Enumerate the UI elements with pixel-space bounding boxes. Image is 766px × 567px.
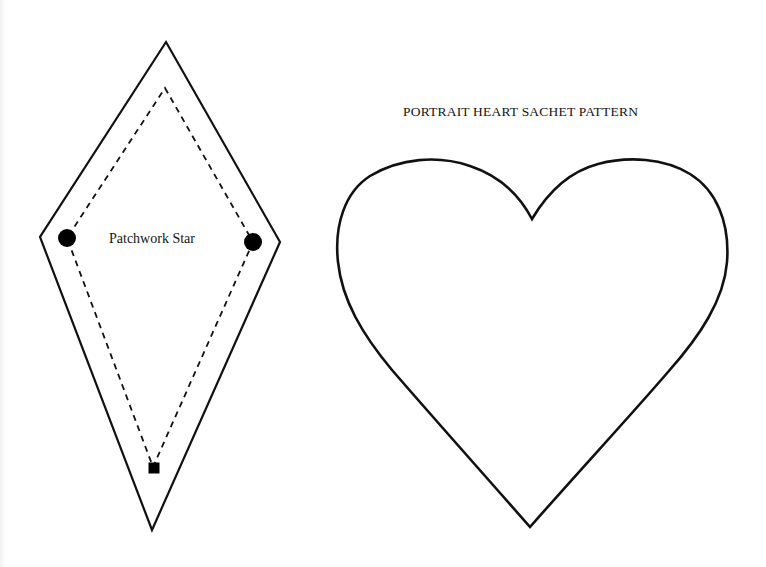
pattern-artwork xyxy=(0,0,766,567)
star-pattern-label: Patchwork Star xyxy=(109,231,195,247)
bottom-square-marker-icon xyxy=(149,463,160,474)
patchwork-star-template xyxy=(40,42,280,530)
right-circle-marker-icon xyxy=(244,233,262,251)
star-cut-line xyxy=(40,42,280,530)
heart-pattern-title: PORTRAIT HEART SACHET PATTERN xyxy=(403,104,638,120)
heart-outline-shape xyxy=(337,159,727,527)
pattern-page: PORTRAIT HEART SACHET PATTERN Patchwork … xyxy=(0,0,766,567)
left-circle-marker-icon xyxy=(58,229,76,247)
